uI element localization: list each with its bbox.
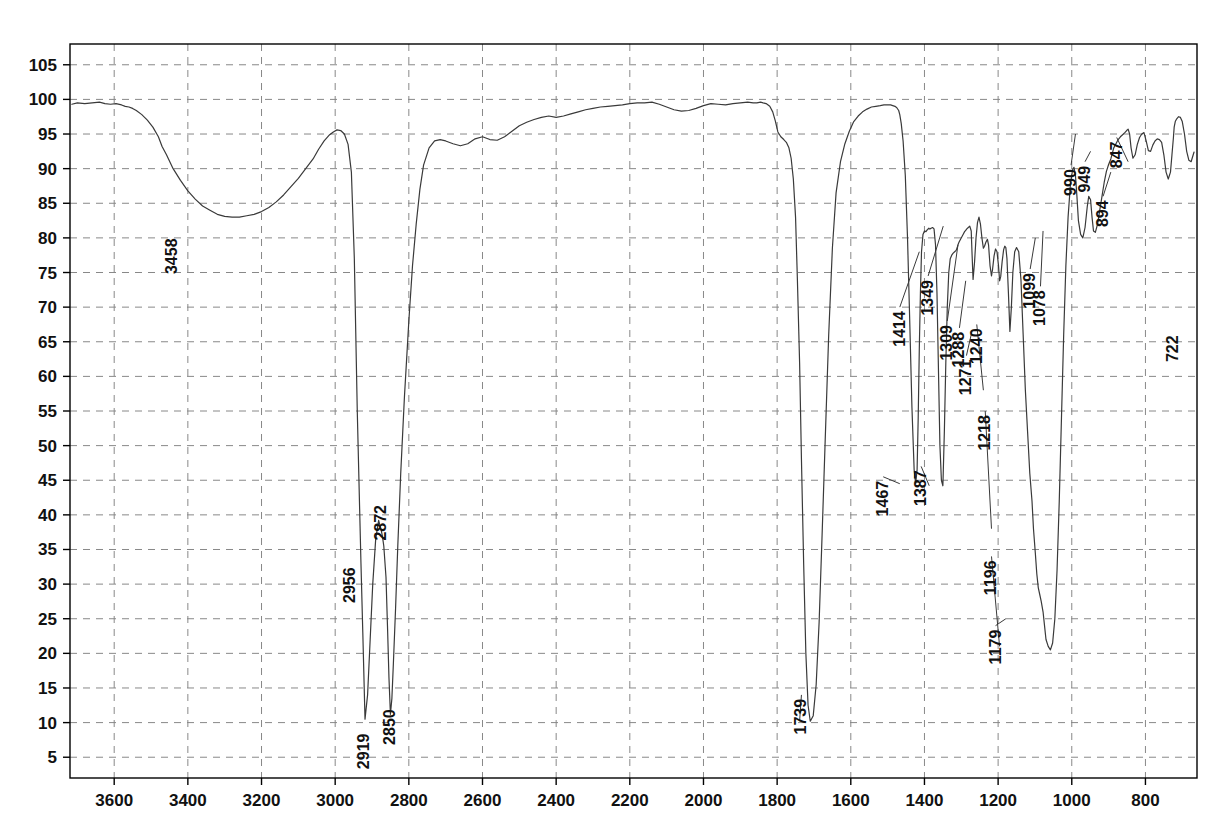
y-tick-label: 5	[48, 748, 57, 767]
peak-label: 2872	[372, 505, 389, 541]
transmittance-trace	[72, 102, 1194, 721]
y-tick-label: 105	[29, 56, 57, 75]
y-tick-label: 15	[38, 679, 57, 698]
peak-leader-line	[1085, 151, 1091, 161]
x-tick-label: 2800	[390, 791, 428, 810]
y-tick-label: 75	[38, 264, 57, 283]
y-tick-label: 60	[38, 367, 57, 386]
x-tick-label: 800	[1131, 791, 1159, 810]
y-tick-label: 80	[38, 229, 57, 248]
x-tick-label: 1800	[758, 791, 796, 810]
peak-label: 894	[1094, 200, 1111, 227]
peak-label: 2956	[341, 567, 358, 603]
ir-spectrum-chart: 5101520253035404550556065707580859095100…	[0, 0, 1228, 840]
peak-label: 1387	[912, 470, 929, 506]
x-tick-label: 1000	[1053, 791, 1091, 810]
peak-label: 1078	[1031, 290, 1048, 326]
spectrum-curve	[72, 102, 1194, 721]
y-tick-label: 90	[38, 160, 57, 179]
peak-label: 1414	[891, 311, 908, 347]
x-tick-label: 3600	[95, 791, 133, 810]
peak-label: 949	[1076, 166, 1093, 193]
x-tick-label: 2000	[685, 791, 723, 810]
y-tick-label: 35	[38, 540, 57, 559]
y-tick-label: 25	[38, 610, 57, 629]
x-tick-label: 3000	[316, 791, 354, 810]
x-tick-label: 1400	[906, 791, 944, 810]
x-tick-label: 2200	[611, 791, 649, 810]
peak-label: 847	[1108, 141, 1125, 168]
peak-label: 2850	[381, 709, 398, 745]
grid-lines	[70, 44, 1197, 778]
y-tick-label: 50	[38, 437, 57, 456]
peak-label: 2919	[355, 733, 372, 769]
peak-label: 1739	[792, 699, 809, 735]
y-axis-ticks: 5101520253035404550556065707580859095100…	[29, 56, 70, 767]
peak-leader-line	[1040, 231, 1043, 286]
y-tick-label: 65	[38, 333, 57, 352]
x-tick-label: 3200	[243, 791, 281, 810]
x-tick-label: 3400	[169, 791, 207, 810]
spectrum-page: 5101520253035404550556065707580859095100…	[0, 0, 1228, 840]
y-tick-label: 40	[38, 506, 57, 525]
peak-label: 3458	[163, 238, 180, 274]
x-tick-label: 2600	[464, 791, 502, 810]
y-tick-label: 55	[38, 402, 57, 421]
y-tick-label: 100	[29, 90, 57, 109]
x-tick-label: 1600	[832, 791, 870, 810]
peak-label: 1179	[987, 630, 1004, 665]
peak-leader-line	[1030, 238, 1035, 269]
y-tick-label: 95	[38, 125, 57, 144]
peak-label: 1349	[919, 280, 936, 316]
x-tick-label: 1200	[979, 791, 1017, 810]
peak-label: 1240	[968, 328, 985, 364]
x-axis-ticks: 3600340032003000280026002400220020001800…	[95, 778, 1159, 810]
peak-label: 1196	[982, 560, 999, 595]
y-tick-label: 85	[38, 194, 57, 213]
y-tick-label: 30	[38, 575, 57, 594]
y-tick-label: 70	[38, 298, 57, 317]
x-tick-label: 2400	[537, 791, 575, 810]
y-tick-label: 20	[38, 644, 57, 663]
peak-leader-line	[959, 281, 965, 328]
peak-label: 1218	[976, 415, 993, 451]
peak-label: 722	[1164, 335, 1181, 362]
peak-label: 1467	[874, 481, 891, 517]
y-tick-label: 45	[38, 471, 57, 490]
y-tick-label: 10	[38, 714, 57, 733]
